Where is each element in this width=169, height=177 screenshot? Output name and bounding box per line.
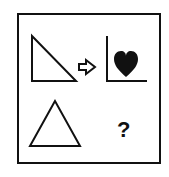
triangle-icon: [30, 101, 80, 146]
puzzle-figures: [0, 0, 169, 177]
question-mark: ?: [117, 118, 130, 142]
arrow-right-icon: [79, 60, 95, 74]
heart-icon: [114, 51, 138, 77]
right-triangle-icon: [32, 36, 76, 81]
